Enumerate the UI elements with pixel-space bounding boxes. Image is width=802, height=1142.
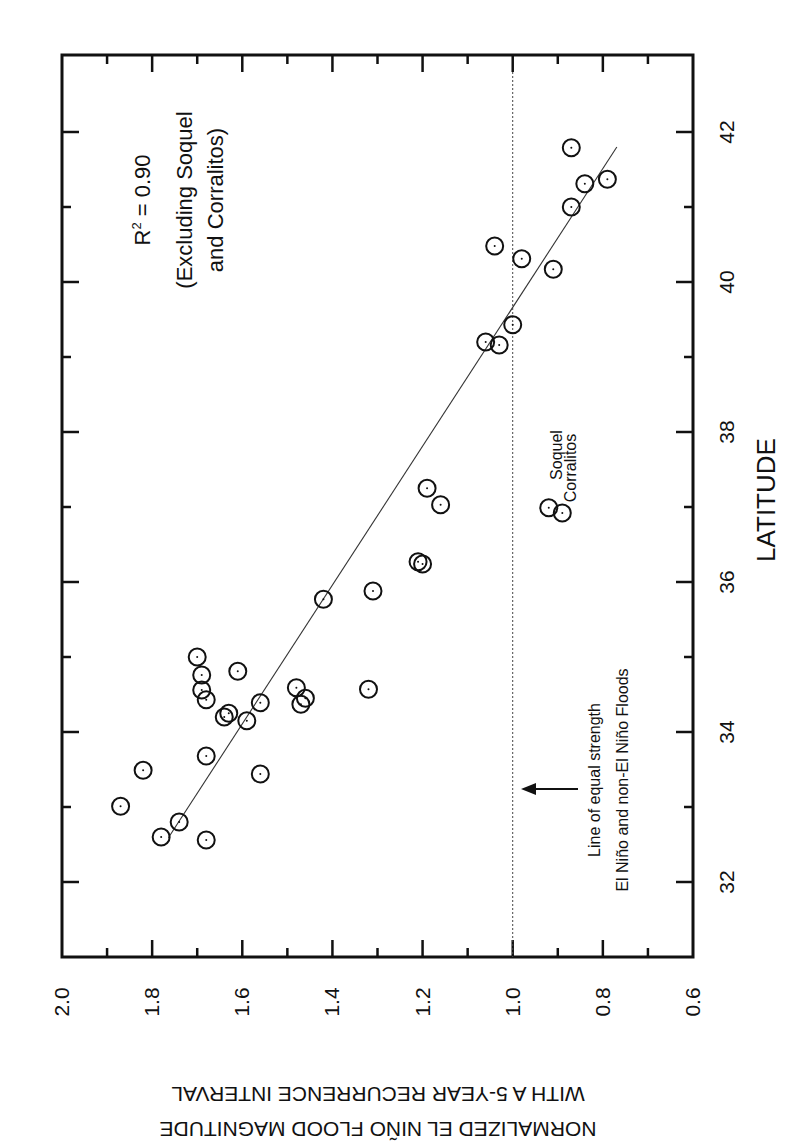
y-axis-title: WITH A 5-YEAR RECURRENCE INTERVAL NORMAL… xyxy=(160,1083,597,1141)
data-point xyxy=(599,171,616,188)
center-dot-icon xyxy=(367,688,369,690)
data-point xyxy=(198,748,215,765)
center-dot-icon xyxy=(201,674,203,676)
data-point xyxy=(171,814,188,831)
center-dot-icon xyxy=(259,702,261,704)
center-dot-icon xyxy=(205,755,207,757)
center-dot-icon xyxy=(178,821,180,823)
svg-text:34: 34 xyxy=(715,720,738,744)
latitude-tick-label: 38 xyxy=(715,420,738,443)
data-point xyxy=(189,649,206,666)
center-dot-icon xyxy=(570,206,572,208)
latitude-tick-label: 42 xyxy=(715,120,738,143)
center-dot-icon xyxy=(201,689,203,691)
center-dot-icon xyxy=(426,487,428,489)
data-point xyxy=(315,591,332,608)
center-dot-icon xyxy=(440,504,442,506)
svg-text:1.6: 1.6 xyxy=(230,987,253,1016)
y-axis-title-line-2: NORMALIZED EL NIÑO FLOOD MAGNITUDE xyxy=(160,1118,597,1141)
svg-text:1.4: 1.4 xyxy=(320,987,343,1017)
x-axis-title: LATITUDE xyxy=(751,438,781,562)
center-dot-icon xyxy=(521,258,523,260)
svg-text:42: 42 xyxy=(715,120,738,143)
center-dot-icon xyxy=(246,720,248,722)
svg-text:40: 40 xyxy=(715,270,738,293)
data-point xyxy=(563,139,580,156)
svg-text:32: 32 xyxy=(715,870,738,893)
data-point xyxy=(220,705,237,722)
value-tick-label: 1.8 xyxy=(140,987,163,1016)
reference-label-line-2: El Niño and non-El Niño Floods xyxy=(614,668,631,891)
data-point xyxy=(419,480,436,497)
latitude-tick-label: 32 xyxy=(715,870,738,893)
data-point xyxy=(198,832,215,849)
center-dot-icon xyxy=(205,699,207,701)
reference-and-regression-lines xyxy=(168,72,616,957)
center-dot-icon xyxy=(322,598,324,600)
center-dot-icon xyxy=(512,324,514,326)
data-point xyxy=(229,663,246,680)
arrow-icon xyxy=(521,783,578,795)
exclusion-note-line-2: and Corralitos) xyxy=(203,128,228,272)
data-point xyxy=(216,709,233,726)
center-dot-icon xyxy=(295,687,297,689)
center-dot-icon xyxy=(570,147,572,149)
center-dot-icon xyxy=(205,839,207,841)
center-dot-icon xyxy=(237,670,239,672)
data-point xyxy=(238,712,255,729)
x-axis-title-text: LATITUDE xyxy=(751,438,781,562)
center-dot-icon xyxy=(561,512,563,514)
center-dot-icon xyxy=(142,769,144,771)
center-dot-icon xyxy=(498,344,500,346)
center-dot-icon xyxy=(606,178,608,180)
data-point xyxy=(432,496,449,513)
center-dot-icon xyxy=(422,563,424,565)
svg-text:2.0: 2.0 xyxy=(50,987,73,1016)
center-dot-icon xyxy=(259,773,261,775)
value-tick-label: 0.8 xyxy=(591,987,614,1016)
value-tick-label: 1.6 xyxy=(230,987,253,1016)
center-dot-icon xyxy=(196,656,198,658)
value-tick-label: 2.0 xyxy=(50,987,73,1016)
svg-text:1.2: 1.2 xyxy=(411,987,434,1016)
center-dot-icon xyxy=(160,836,162,838)
axis-tick-labels: 2.01.81.61.41.21.00.80.6323436384042 xyxy=(50,120,738,1016)
regression-line xyxy=(168,147,616,838)
center-dot-icon xyxy=(120,805,122,807)
svg-text:1.0: 1.0 xyxy=(501,987,524,1016)
svg-text:36: 36 xyxy=(715,570,738,593)
center-dot-icon xyxy=(372,590,374,592)
data-point xyxy=(513,250,530,267)
data-point xyxy=(153,829,170,846)
svg-text:Corralitos: Corralitos xyxy=(562,434,579,502)
value-tick-label: 1.0 xyxy=(501,987,524,1016)
svg-text:1.8: 1.8 xyxy=(140,987,163,1016)
data-point xyxy=(486,238,503,255)
center-dot-icon xyxy=(300,703,302,705)
r-squared-annotation: R2 = 0.90 (Excluding Soquel and Corralit… xyxy=(129,111,228,288)
data-point xyxy=(364,583,381,600)
data-point xyxy=(112,798,129,815)
center-dot-icon xyxy=(548,507,550,509)
corralitos-label: Corralitos xyxy=(562,434,579,502)
scatter-chart: 2.01.81.61.41.21.00.80.6323436384042 WIT… xyxy=(0,0,802,1142)
data-point xyxy=(504,316,521,333)
data-point xyxy=(135,762,152,779)
value-tick-label: 0.6 xyxy=(681,987,704,1016)
exclusion-note-line-1: (Excluding Soquel xyxy=(172,111,197,288)
y-axis-title-line-1: WITH A 5-YEAR RECURRENCE INTERVAL xyxy=(171,1083,584,1106)
center-dot-icon xyxy=(228,712,230,714)
data-point xyxy=(252,766,269,783)
latitude-tick-label: 34 xyxy=(715,720,738,744)
data-point xyxy=(288,679,305,696)
svg-text:0.8: 0.8 xyxy=(591,987,614,1016)
data-point xyxy=(576,175,593,192)
r-squared-text: R2 = 0.90 xyxy=(129,154,155,245)
data-point xyxy=(545,261,562,278)
data-point xyxy=(292,696,309,713)
data-point xyxy=(360,681,377,698)
chart-canvas: 2.01.81.61.41.21.00.80.6323436384042 WIT… xyxy=(0,0,802,1142)
value-tick-label: 1.4 xyxy=(320,987,343,1017)
svg-text:0.6: 0.6 xyxy=(681,987,704,1016)
center-dot-icon xyxy=(223,716,225,718)
